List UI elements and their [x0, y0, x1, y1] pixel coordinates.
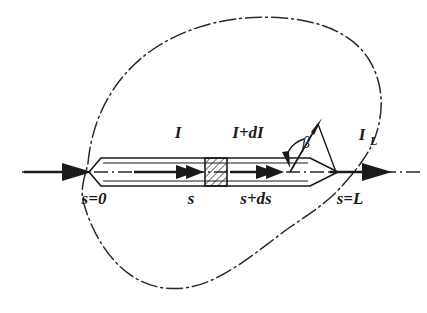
- label-s-end: s=L: [336, 189, 364, 208]
- label-s-mid: s: [187, 189, 195, 208]
- label-s-zero: s=0: [81, 189, 107, 208]
- canvas-background: [0, 0, 427, 313]
- label-intensity-exit-subscript: L: [369, 134, 377, 148]
- label-beta-angle: β: [301, 134, 310, 152]
- differential-slab: [205, 158, 227, 186]
- figure-root: I I+dI I L β s=0 s s+ds s=L: [0, 0, 427, 313]
- differential-slab-rect: [205, 158, 227, 186]
- label-intensity-out: I+dI: [231, 123, 265, 142]
- label-s-plus-ds: s+ds: [239, 189, 272, 208]
- radiative-transfer-diagram: I I+dI I L β s=0 s s+ds s=L: [0, 0, 427, 313]
